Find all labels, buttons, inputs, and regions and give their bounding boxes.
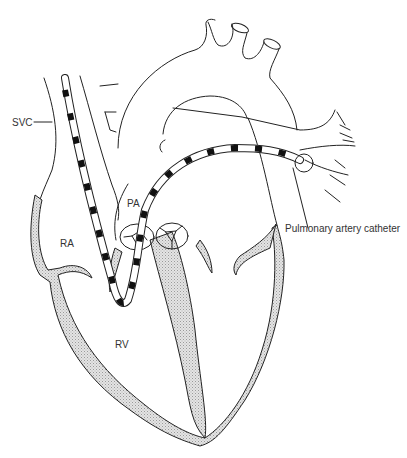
pulmonary-artery bbox=[100, 84, 355, 202]
heart-walls bbox=[31, 195, 284, 446]
catheter-leader-line bbox=[293, 168, 308, 228]
label-rv: RV bbox=[115, 339, 129, 350]
label-svc: SVC bbox=[12, 117, 33, 128]
label-catheter: Pulmonary artery catheter bbox=[285, 223, 401, 234]
aorta bbox=[118, 19, 297, 148]
heart-diagram: SVC RA PA RV Pulmonary artery catheter bbox=[0, 0, 407, 458]
label-ra: RA bbox=[60, 238, 74, 249]
label-pa: PA bbox=[127, 198, 140, 209]
lv-wall bbox=[248, 118, 277, 225]
